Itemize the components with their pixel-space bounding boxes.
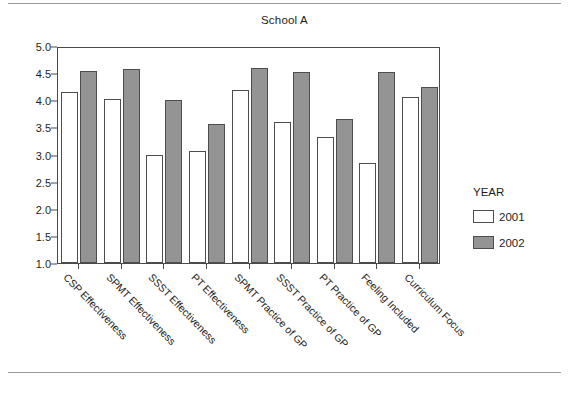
y-tick-label: 4.0 — [36, 95, 51, 107]
x-tick-mark — [291, 264, 292, 269]
bar-2001-8 — [402, 97, 419, 263]
x-tick-mark — [376, 264, 377, 269]
legend-item-2002[interactable]: 2002 — [473, 236, 563, 249]
y-tick-label: 1.0 — [36, 258, 51, 270]
y-tick-label: 1.5 — [36, 231, 51, 243]
bar-2002-0 — [80, 71, 97, 263]
page-rule-top — [8, 3, 561, 4]
bar-2001-0 — [61, 92, 78, 263]
y-tick-label: 2.0 — [36, 204, 51, 216]
legend-item-label: 2001 — [499, 211, 525, 223]
x-tick-mark — [419, 264, 420, 269]
bar-2002-3 — [208, 124, 225, 263]
y-tick-label: 3.5 — [36, 122, 51, 134]
bar-2001-2 — [146, 155, 163, 264]
x-tick-label: SSST Practice of GP — [274, 271, 351, 350]
x-tick-mark — [334, 264, 335, 269]
bar-2002-2 — [165, 100, 182, 263]
page-rule-bottom — [8, 372, 561, 373]
legend-title: YEAR — [473, 186, 563, 198]
y-tick-label: 2.5 — [36, 177, 51, 189]
bar-2002-7 — [378, 72, 395, 264]
bar-2002-4 — [251, 68, 268, 263]
bar-2001-5 — [274, 122, 291, 263]
bar-2001-3 — [189, 151, 206, 263]
x-tick-mark — [78, 264, 79, 269]
y-axis: 5.04.54.03.53.02.52.01.51.0 — [20, 47, 51, 264]
bar-2002-5 — [293, 72, 310, 263]
bar-2001-6 — [317, 137, 334, 263]
legend-item-label: 2002 — [499, 237, 525, 249]
legend: YEAR 20012002 — [473, 186, 563, 262]
y-tick-label: 4.5 — [36, 68, 51, 80]
plot-area — [57, 47, 440, 264]
legend-items: 20012002 — [473, 210, 563, 249]
legend-swatch-icon — [473, 210, 494, 223]
legend-item-2001[interactable]: 2001 — [473, 210, 563, 223]
y-tick-label: 3.0 — [36, 150, 51, 162]
x-tick-label: SPMT Practice of GP — [232, 271, 310, 351]
x-tick-mark — [249, 264, 250, 269]
chart-page: School A 5.04.54.03.53.02.52.01.51.0 CSP… — [0, 0, 569, 393]
bar-2002-6 — [336, 119, 353, 263]
x-tick-mark — [206, 264, 207, 269]
y-tick-label: 5.0 — [36, 41, 51, 53]
x-tick-mark — [163, 264, 164, 269]
x-tick-mark — [121, 264, 122, 269]
bar-2002-1 — [123, 69, 140, 263]
page-title: School A — [0, 14, 569, 26]
bar-2001-1 — [104, 99, 121, 263]
bar-2002-8 — [421, 87, 438, 263]
legend-swatch-icon — [473, 236, 494, 249]
bar-2001-4 — [232, 90, 249, 263]
bar-2001-7 — [359, 163, 376, 263]
